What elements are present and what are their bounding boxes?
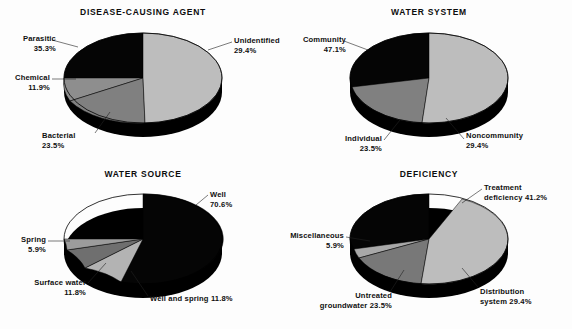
label-untreated-groundwater: Untreated groundwater 23.5% [306, 291, 392, 311]
label-surface-water: Surface water 11.8% [0, 278, 86, 298]
pie-chart-deficiency: DEFICIENCY Treatment [286, 165, 572, 329]
label-noncommunity: Noncommunity 29.4% [466, 131, 523, 151]
label-miscellaneous: Miscellaneous 5.9% [286, 231, 344, 251]
pie-chart-disease-causing-agent: DISEASE-CAUSING AGENT [0, 0, 286, 164]
label-parasitic: Parasitic 35.3% [2, 34, 56, 54]
label-distribution-system: Distribution system 29.4% [480, 287, 532, 307]
label-treatment-deficiency: Treatment deficiency 41.2% [484, 183, 547, 203]
leader-community [344, 41, 368, 50]
label-unidentified: Unidentified 29.4% [234, 36, 280, 56]
label-chemical: Chemical 11.9% [0, 73, 50, 93]
leader-unidentified [208, 42, 232, 50]
pie-chart-water-source: WATER SOURCE Well [0, 165, 286, 329]
label-individual: Individual 23.5% [328, 134, 382, 154]
slice-community [350, 33, 429, 87]
label-community: Community 47.1% [288, 35, 346, 55]
figure-root: DISEASE-CAUSING AGENT [0, 0, 572, 329]
leader-well [196, 195, 208, 205]
label-spring: Spring 5.9% [0, 235, 46, 255]
pie-chart-water-system: WATER SYSTEM Community 47. [286, 0, 572, 164]
label-well: Well 70.6% [210, 190, 232, 210]
label-bacterial: Bacterial 23.5% [42, 131, 75, 151]
label-well-and-spring: Well and spring 11.8% [150, 294, 233, 304]
